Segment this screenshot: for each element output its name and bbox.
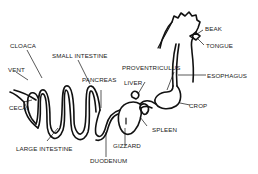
label-spleen: SPLEEN bbox=[152, 126, 177, 133]
label-crop: CROP bbox=[189, 102, 207, 109]
label-large-intestine: LARGE INTESTINE bbox=[16, 145, 73, 152]
label-tongue: TONGUE bbox=[206, 42, 233, 49]
digestive-system-diagram: BEAK TONGUE ESOPHAGUS CROP PROVENTRICULU… bbox=[0, 0, 258, 174]
label-duodenum: DUODENUM bbox=[90, 157, 127, 164]
label-vent: VENT bbox=[8, 66, 25, 73]
label-liver: LIVER bbox=[124, 79, 142, 86]
label-beak: BEAK bbox=[205, 25, 222, 32]
label-proventriculus: PROVENTRICULUS bbox=[122, 64, 180, 71]
label-small-intestine: SMALL INTESTINE bbox=[52, 52, 108, 59]
label-cloaca: CLOACA bbox=[10, 42, 36, 49]
label-esophagus: ESOPHAGUS bbox=[207, 72, 247, 79]
label-gizzard: GIZZARD bbox=[113, 142, 141, 149]
label-ceca: CECA bbox=[9, 104, 27, 111]
label-pancreas: PANCREAS bbox=[82, 76, 116, 83]
